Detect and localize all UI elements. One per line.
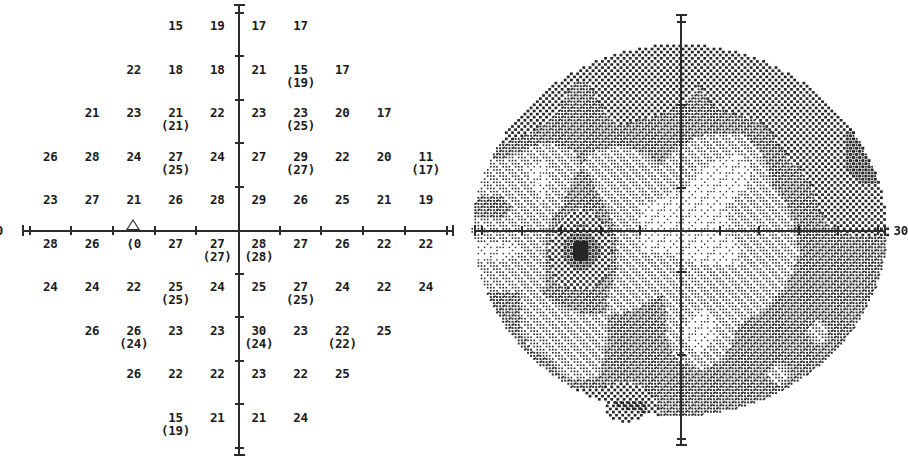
axis-end-cap [22, 225, 24, 236]
threshold-main-value: 26 [29, 151, 71, 163]
threshold-value: 21 [71, 107, 113, 119]
threshold-main-value: 22 [154, 368, 196, 380]
threshold-main-value: 21 [196, 412, 238, 424]
threshold-value: 18 [196, 64, 238, 76]
axis-tick [235, 360, 244, 362]
threshold-main-value: 29 [238, 194, 280, 206]
threshold-main-value: 22 [113, 64, 155, 76]
threshold-main-value: 28 [29, 238, 71, 250]
threshold-value: 25 [321, 194, 363, 206]
axis-tick [235, 186, 244, 188]
threshold-value: 19 [405, 194, 447, 206]
threshold-value: 29 [238, 194, 280, 206]
threshold-retest-value: (24) [113, 337, 155, 350]
axis-tick [362, 226, 364, 235]
threshold-value: 29(27) [280, 151, 322, 176]
axis-tick [446, 226, 448, 235]
axis-tick [235, 447, 244, 449]
threshold-retest-value: (17) [405, 163, 447, 176]
threshold-main-value: 17 [321, 64, 363, 76]
threshold-main-value: 27 [280, 238, 322, 250]
threshold-main-value: 19 [196, 20, 238, 32]
numeric-threshold-plot: 30 151917172218182115(19)17212321(21)222… [0, 0, 460, 454]
threshold-main-value: 26 [154, 194, 196, 206]
threshold-value: 22 [113, 64, 155, 76]
threshold-value: 17 [280, 20, 322, 32]
threshold-value: 25 [363, 325, 405, 337]
threshold-retest-value: (28) [238, 250, 280, 263]
threshold-retest-value: (22) [321, 337, 363, 350]
grayscale-axis-extent-label: 30 [894, 223, 908, 238]
threshold-value: 23 [113, 107, 155, 119]
threshold-value: 26 [29, 151, 71, 163]
threshold-main-value: 27 [71, 194, 113, 206]
threshold-value: 28(28) [238, 238, 280, 263]
axis-tick [758, 226, 760, 235]
axis-tick [235, 99, 244, 101]
threshold-main-value: 21 [238, 412, 280, 424]
threshold-main-value: 23 [196, 325, 238, 337]
threshold-main-value: 24 [196, 151, 238, 163]
threshold-value: 22 [405, 238, 447, 250]
threshold-value: 21 [363, 194, 405, 206]
threshold-value: 27(27) [196, 238, 238, 263]
threshold-main-value: 15 [280, 64, 322, 76]
threshold-value: 27 [154, 238, 196, 250]
axis-tick [677, 354, 686, 356]
threshold-main-value: 24 [113, 151, 155, 163]
triangle-inner [128, 221, 138, 229]
threshold-main-value: 21 [363, 194, 405, 206]
threshold-value: 26 [154, 194, 196, 206]
threshold-main-value: 24 [321, 281, 363, 293]
axis-tick [320, 226, 322, 235]
axis-tick [235, 55, 244, 57]
threshold-value: 25 [238, 281, 280, 293]
threshold-value: 17 [238, 20, 280, 32]
threshold-main-value: 26 [71, 238, 113, 250]
blind-spot-triangle-icon [126, 219, 140, 230]
threshold-main-value: 24 [405, 281, 447, 293]
threshold-retest-value: (25) [280, 119, 322, 132]
threshold-main-value: 24 [71, 281, 113, 293]
threshold-value: 24 [405, 281, 447, 293]
numeric-axis-extent-label: 30 [0, 223, 3, 238]
threshold-value: 21 [196, 412, 238, 424]
threshold-value: 26 [113, 368, 155, 380]
threshold-value: 27(25) [154, 151, 196, 176]
threshold-value: 21 [113, 194, 155, 206]
axis-end-cap [474, 225, 476, 236]
threshold-main-value: 11 [405, 151, 447, 163]
threshold-main-value: 22 [321, 151, 363, 163]
threshold-value: 22 [154, 368, 196, 380]
threshold-main-value: 21 [113, 194, 155, 206]
threshold-value: 27 [280, 238, 322, 250]
threshold-retest-value: (25) [154, 163, 196, 176]
axis-tick [235, 142, 244, 144]
threshold-retest-value: (24) [238, 337, 280, 350]
grayscale-dot-matrix [460, 0, 908, 454]
axis-tick [677, 104, 686, 106]
threshold-main-value: 23 [280, 325, 322, 337]
threshold-retest-value: (19) [154, 424, 196, 437]
axis-tick [404, 226, 406, 235]
threshold-main-value: 26 [71, 325, 113, 337]
threshold-main-value: 23 [238, 107, 280, 119]
threshold-value: 24 [321, 281, 363, 293]
threshold-value: 22 [280, 368, 322, 380]
threshold-value: 23 [238, 107, 280, 119]
threshold-main-value: 22 [321, 325, 363, 337]
threshold-main-value: 19 [405, 194, 447, 206]
threshold-main-value: 26 [113, 368, 155, 380]
axis-tick [235, 273, 244, 275]
axis-tick [798, 226, 800, 235]
axis-tick [560, 226, 562, 235]
axis-tick [235, 316, 244, 318]
threshold-main-value: 22 [363, 238, 405, 250]
axis-tick [481, 226, 483, 235]
threshold-value: 26 [321, 238, 363, 250]
threshold-main-value: 20 [363, 151, 405, 163]
threshold-value: 22 [363, 238, 405, 250]
grayscale-vertical-axis [680, 15, 682, 446]
threshold-main-value: 22 [113, 281, 155, 293]
threshold-value: 22 [321, 151, 363, 163]
